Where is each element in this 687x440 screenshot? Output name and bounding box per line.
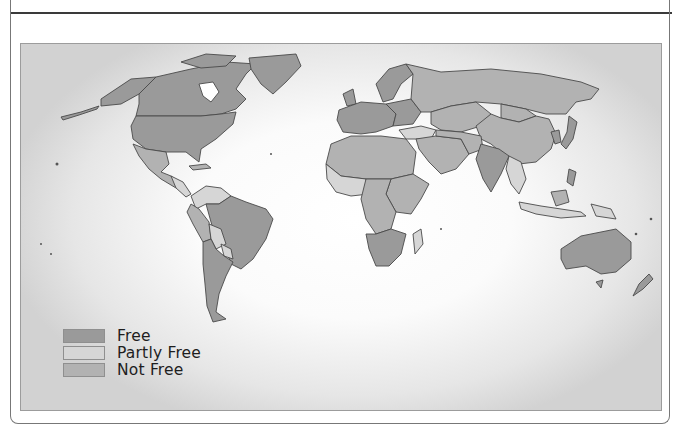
island-hawaii <box>56 163 59 166</box>
region-middle-east <box>416 136 469 174</box>
legend-item-not-free: Not Free <box>63 361 201 378</box>
island-pacific-2 <box>50 253 52 255</box>
island-atlantic <box>270 153 272 155</box>
region-canada <box>136 62 256 116</box>
region-papua <box>591 204 616 219</box>
region-madagascar <box>413 229 423 254</box>
aleutian-islands <box>61 106 99 120</box>
island-pacific-1 <box>40 243 42 245</box>
map-legend: Free Partly Free Not Free <box>63 327 201 378</box>
legend-item-partly-free: Partly Free <box>63 344 201 361</box>
world-map-panel: Free Partly Free Not Free <box>20 43 662 411</box>
region-western-europe <box>337 102 396 134</box>
island-pacific-3 <box>635 233 638 236</box>
region-greenland <box>249 54 301 94</box>
region-north-africa <box>326 136 416 179</box>
island-pacific-4 <box>650 218 653 221</box>
legend-label-not-free: Not Free <box>117 361 184 379</box>
legend-item-free: Free <box>63 327 201 344</box>
region-tasmania <box>596 280 603 288</box>
region-uk <box>343 89 356 106</box>
region-indonesia <box>519 202 586 218</box>
island-indian-ocean <box>440 228 442 230</box>
region-cuba <box>189 164 211 170</box>
legend-swatch-not-free <box>63 363 105 377</box>
legend-label-partly-free: Partly Free <box>117 344 201 362</box>
region-philippines <box>567 169 576 186</box>
region-borneo <box>551 190 569 206</box>
region-scandinavia <box>376 64 413 102</box>
legend-swatch-partly-free <box>63 346 105 360</box>
region-japan <box>561 116 577 149</box>
region-australia <box>561 229 631 274</box>
region-southern-africa <box>366 229 406 266</box>
region-new-zealand <box>633 274 653 296</box>
legend-label-free: Free <box>117 327 151 345</box>
legend-swatch-free <box>63 329 105 343</box>
